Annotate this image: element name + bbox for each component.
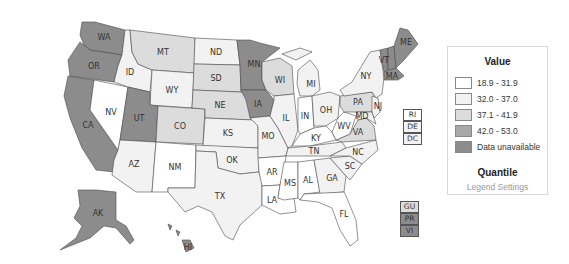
state-label-SC: SC xyxy=(345,162,356,171)
state-label-NC: NC xyxy=(352,148,364,157)
classification-method: Quantile xyxy=(448,167,547,178)
legend-item: 18.9 - 31.9 xyxy=(455,76,518,90)
state-label-AL: AL xyxy=(303,176,313,185)
territory-box-GU[interactable]: GU xyxy=(400,201,419,213)
state-label-MA: MA xyxy=(386,72,399,81)
legend-item: 37.1 - 41.9 xyxy=(455,108,518,122)
state-label-TN: TN xyxy=(308,147,320,156)
legend-swatch xyxy=(455,125,472,137)
state-label-IL: IL xyxy=(283,114,290,123)
state-label-NE: NE xyxy=(214,101,225,110)
state-label-MS: MS xyxy=(284,179,296,188)
state-label-VA: VA xyxy=(353,128,364,137)
state-label-PA: PA xyxy=(353,98,363,107)
state-box-DE[interactable]: DE xyxy=(403,121,422,133)
state-label-AZ: AZ xyxy=(129,160,140,169)
map-legend: Value 18.9 - 31.9 32.0 - 37.0 37.1 - 41.… xyxy=(447,46,548,195)
state-AK[interactable] xyxy=(60,190,134,250)
state-label-MI: MI xyxy=(306,80,315,89)
state-label-CO: CO xyxy=(174,122,186,131)
state-label-IA: IA xyxy=(254,100,262,109)
legend-label: 32.0 - 37.0 xyxy=(477,94,518,104)
legend-swatch xyxy=(455,109,472,121)
state-label-MN: MN xyxy=(248,60,261,69)
legend-swatch xyxy=(455,77,472,89)
state-FL[interactable] xyxy=(300,192,358,246)
state-label-UT: UT xyxy=(134,114,145,123)
state-label-HI: HI xyxy=(184,243,192,252)
state-label-ME: ME xyxy=(400,38,412,47)
legend-swatch xyxy=(455,141,472,153)
state-label-TX: TX xyxy=(214,192,226,201)
state-label-NM: NM xyxy=(169,163,182,172)
state-label-ND: ND xyxy=(210,48,222,57)
state-label-MD: MD xyxy=(355,112,368,121)
territory-box-PR[interactable]: PR xyxy=(400,213,419,225)
legend-item: 32.0 - 37.0 xyxy=(455,92,518,106)
state-label-WA: WA xyxy=(98,33,111,42)
state-box-DC[interactable]: DC xyxy=(403,133,422,145)
state-label-AR: AR xyxy=(266,168,277,177)
state-label-SD: SD xyxy=(210,74,221,83)
state-box-RI[interactable]: RI xyxy=(403,109,422,121)
legend-label: 37.1 - 41.9 xyxy=(477,110,518,120)
state-label-KS: KS xyxy=(223,129,233,138)
state-label-MT: MT xyxy=(157,48,169,57)
legend-settings-link[interactable]: Legend Settings xyxy=(448,182,547,192)
state-label-MO: MO xyxy=(261,132,274,141)
state-label-NV: NV xyxy=(105,108,117,117)
state-label-GA: GA xyxy=(326,174,338,183)
state-label-NY: NY xyxy=(361,72,372,81)
state-label-NJ: NJ xyxy=(374,102,382,111)
state-label-OR: OR xyxy=(88,62,100,71)
legend-label: Data unavailable xyxy=(477,142,540,152)
us-choropleth-map: WAORCANVIDMTWYUTCOAZNMNDSDNEKSOKTXMNIAMO… xyxy=(0,0,440,264)
state-label-LA: LA xyxy=(267,196,278,205)
legend-swatch xyxy=(455,93,472,105)
state-label-WY: WY xyxy=(166,86,179,95)
state-label-WI: WI xyxy=(275,76,285,85)
state-label-FL: FL xyxy=(339,210,349,219)
state-label-IN: IN xyxy=(301,112,309,121)
state-label-OH: OH xyxy=(320,106,332,115)
state-label-ID: ID xyxy=(126,68,135,77)
state-label-WV: WV xyxy=(337,122,351,131)
state-label-VT: VT xyxy=(379,56,389,65)
legend-item: 42.0 - 53.0 xyxy=(455,124,518,138)
territory-box-VI[interactable]: VI xyxy=(400,225,419,237)
state-label-KY: KY xyxy=(311,134,321,143)
state-label-AK: AK xyxy=(93,209,104,218)
state-ME[interactable] xyxy=(394,28,418,68)
state-label-CA: CA xyxy=(82,121,94,130)
state-label-OK: OK xyxy=(226,156,238,165)
legend-title: Value xyxy=(448,56,547,67)
legend-item: Data unavailable xyxy=(455,140,540,154)
legend-label: 42.0 - 53.0 xyxy=(477,126,518,136)
legend-label: 18.9 - 31.9 xyxy=(477,78,518,88)
